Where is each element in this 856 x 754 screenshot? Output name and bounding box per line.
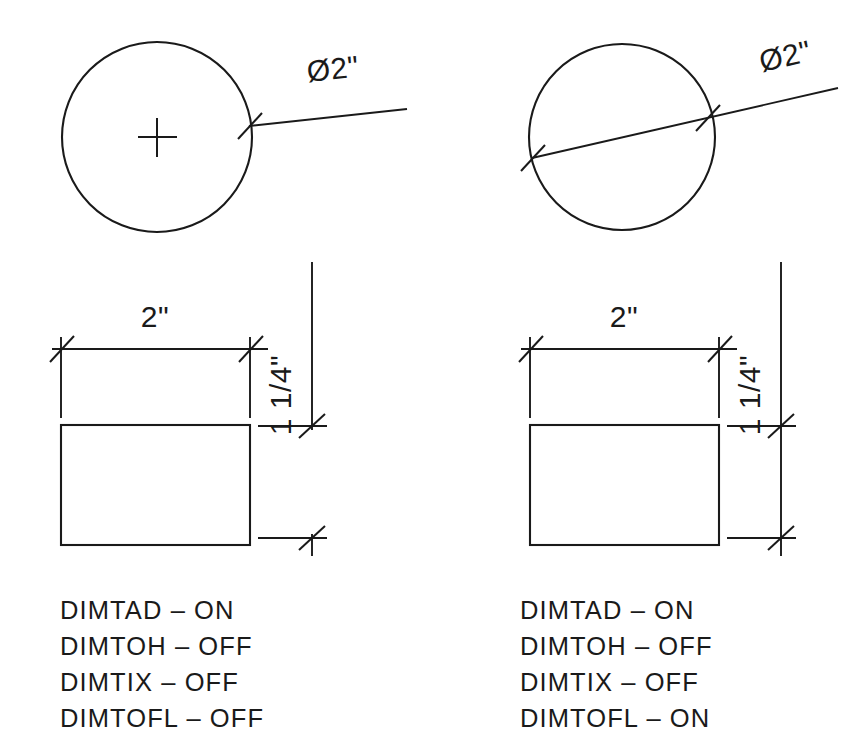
cad-drawing-svg: Ø2" Ø2" 2": [0, 0, 856, 754]
right-note-line: DIMTIX – OFF: [520, 668, 699, 696]
left-note-line: DIMTIX – OFF: [60, 668, 239, 696]
left-width-label: 2": [141, 300, 169, 333]
right-note-line: DIMTOFL – ON: [520, 704, 710, 732]
right-width-label: 2": [610, 300, 638, 333]
left-note-line: DIMTOFL – OFF: [60, 704, 264, 732]
left-note-line: DIMTOH – OFF: [60, 632, 253, 660]
technical-drawing-canvas: Ø2" Ø2" 2": [0, 0, 856, 754]
left-diameter-label: Ø2": [305, 50, 360, 88]
right-height-label: 1 1/4": [733, 355, 766, 435]
right-note-line: DIMTAD – ON: [520, 596, 695, 624]
left-note-line: DIMTAD – ON: [60, 596, 235, 624]
left-height-label: 1 1/4": [264, 355, 297, 435]
right-note-line: DIMTOH – OFF: [520, 632, 713, 660]
